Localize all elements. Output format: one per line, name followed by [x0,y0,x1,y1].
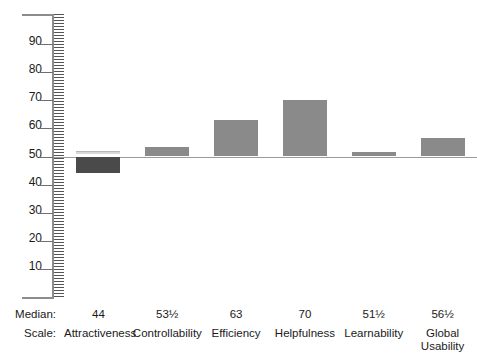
y-axis-tick-mark [40,269,53,270]
scale-name-line-1: Attractiveness [64,327,133,340]
median-value-cell: 44 [64,308,133,321]
y-axis-tick-label: 80 [8,63,42,75]
label-table: Median: Scale: 44Attractiveness53½Contro… [0,300,477,363]
bar [145,147,189,157]
y-axis-tick-label: 90 [8,35,42,47]
scale-name-line-1: Helpfulness [271,327,340,340]
y-axis-tick-label: 10 [8,260,42,272]
scale-name-line-1: Global [408,327,477,340]
scale-name-cell: Efficiency [202,327,271,340]
bar-reference-cap [76,151,120,154]
plot-area: 908070605040302010 [0,0,477,300]
y-axis-tick-mark [40,185,53,186]
y-axis-tick-label: 20 [8,232,42,244]
scale-name-line-1: Controllability [133,327,202,340]
scale-row-header: Scale: [0,327,56,340]
y-axis-tick-label: 60 [8,119,42,131]
scale-name-cell: Attractiveness [64,327,133,340]
scale-name-line-2: Usability [408,340,477,353]
median-row-header: Median: [0,308,56,321]
y-axis-tick-mark [40,241,53,242]
y-axis-tick-mark [40,157,53,158]
scale-name-cell: GlobalUsability [408,327,477,353]
scale-name-line-1: Efficiency [202,327,271,340]
bar [283,100,327,156]
scale-name-line-1: Learnability [339,327,408,340]
axis-top-cap [22,14,53,16]
y-axis-tick-mark [40,213,53,214]
deviation-bar-chart-figure: 908070605040302010 Median: Scale: 44Attr… [0,0,477,363]
axis-bottom-cap [22,297,53,299]
median-value-cell: 53½ [133,308,202,321]
y-axis-tick-label: 30 [8,204,42,216]
y-axis-tick-label: 70 [8,91,42,103]
y-axis-tick-label: 50 [8,148,42,160]
bar [421,138,465,156]
y-axis-tick-mark [40,72,53,73]
scale-name-cell: Controllability [133,327,202,340]
scale-name-cell: Helpfulness [271,327,340,340]
median-value-cell: 56½ [408,308,477,321]
median-value-cell: 70 [271,308,340,321]
y-axis-tick-mark [40,128,53,129]
bar [76,157,120,174]
y-axis-tick-label: 40 [8,176,42,188]
median-value-cell: 63 [202,308,271,321]
bar [352,152,396,156]
y-axis-tick-mark [40,100,53,101]
median-value-cell: 51½ [339,308,408,321]
bar [214,120,258,157]
y-axis-tick-mark [40,44,53,45]
scale-name-cell: Learnability [339,327,408,340]
